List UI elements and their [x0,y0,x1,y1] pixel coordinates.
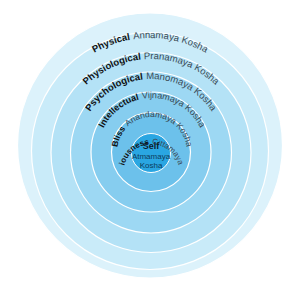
koshas-diagram: PhysicalAnnamaya Kosha PhysiologicalPran… [0,0,300,296]
core-title: Self [143,141,161,151]
core-line2: Kosha [140,161,163,170]
core-line1: Atmamaya [132,152,171,161]
